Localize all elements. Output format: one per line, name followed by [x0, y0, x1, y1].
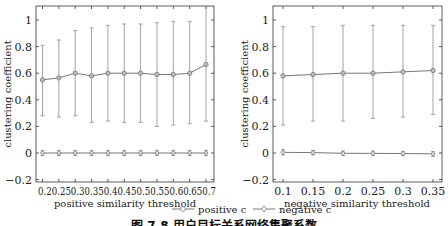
y-tick-label: 0 [262, 147, 269, 160]
series-negative-c [281, 150, 435, 157]
legend-label: positive c [198, 204, 247, 215]
data-point-marker [106, 151, 110, 156]
data-point-marker [139, 151, 143, 156]
y-tick-label: 0.8 [15, 41, 33, 54]
data-point-marker [311, 150, 315, 155]
data-point-marker [89, 74, 93, 78]
y-tick-label: 0.2 [252, 120, 270, 133]
series-negative-c [41, 150, 209, 155]
data-point-marker [341, 71, 345, 75]
data-point-marker [171, 151, 175, 156]
legend-diamond-icon [262, 206, 267, 212]
data-point-marker [431, 68, 435, 72]
y-tick-label: −0.2 [5, 174, 32, 187]
y-tick-label: 1 [25, 14, 32, 27]
y-tick-label: 0.4 [15, 94, 33, 107]
data-point-marker [73, 71, 77, 75]
data-point-marker [281, 150, 285, 155]
plot-frame [273, 6, 442, 182]
data-point-marker [122, 151, 126, 156]
data-point-marker [57, 76, 61, 80]
x-tick-label: 0.3 [394, 185, 412, 198]
legend-circle-icon [181, 207, 186, 212]
x-tick-label: 0.2 [334, 185, 352, 198]
y-tick-label: 0 [25, 147, 32, 160]
data-point-marker [281, 74, 285, 78]
y-tick-label: −0.2 [242, 174, 269, 187]
data-point-marker [73, 151, 77, 156]
data-point-marker [90, 151, 94, 156]
x-tick-label: 0.15 [301, 185, 326, 198]
legend-label: negative c [279, 204, 332, 215]
x-tick-label: 0.25 [361, 185, 386, 198]
figure-caption: 图 7.8 用户目标关系网络集聚系数 [0, 219, 448, 226]
data-point-marker [155, 72, 159, 76]
y-tick-label: 0.6 [15, 67, 33, 80]
x-axis-label: positive similarity threshold [54, 198, 197, 209]
plot-panel-1: −0.200.20.40.60.81clustering coefficient… [2, 6, 216, 209]
chart-figure: −0.200.20.40.60.81clustering coefficient… [0, 0, 448, 226]
y-tick-label: 0.8 [252, 41, 270, 54]
data-point-marker [138, 71, 142, 75]
x-tick-labels: 0.20.250.30.350.40.450.50.550.60.650.7 [38, 185, 216, 198]
data-point-marker [371, 71, 375, 75]
series-positive-c [40, 7, 208, 127]
y-tick-label: 1 [262, 14, 269, 27]
data-point-marker [371, 151, 375, 156]
data-point-marker [57, 151, 61, 156]
data-point-marker [155, 151, 159, 156]
data-point-marker [187, 71, 191, 75]
data-point-marker [40, 78, 44, 82]
x-tick-label: 0.35 [421, 185, 446, 198]
data-point-marker [204, 62, 208, 66]
data-point-marker [401, 70, 405, 74]
data-point-marker [41, 151, 45, 156]
data-point-marker [171, 72, 175, 76]
data-point-marker [341, 151, 345, 156]
data-point-marker [204, 151, 208, 156]
y-tick-label: 0.4 [252, 94, 270, 107]
data-point-marker [311, 72, 315, 76]
plot-panel-2: −0.200.20.40.60.81clustering coefficient… [239, 6, 445, 209]
series-positive-c [281, 25, 435, 125]
x-tick-label: 0.1 [274, 185, 292, 198]
y-axis-label: clustering coefficient [239, 40, 250, 147]
y-tick-label: 0.6 [252, 67, 270, 80]
y-axis-label: clustering coefficient [2, 40, 13, 147]
data-point-marker [122, 71, 126, 75]
y-tick-label: 0.2 [15, 120, 33, 133]
data-point-marker [188, 151, 192, 156]
data-point-marker [106, 71, 110, 75]
